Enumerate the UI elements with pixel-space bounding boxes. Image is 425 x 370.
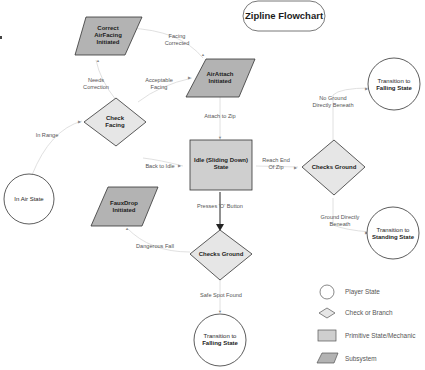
connector-marker: ▲ xyxy=(201,52,205,57)
node-checks-ground-bottom[interactable]: Checks Ground xyxy=(190,230,252,280)
edge-label: Corrected xyxy=(165,40,190,46)
node-label: AirFacing xyxy=(94,32,122,38)
node-label: State xyxy=(214,164,229,170)
node-label: Checks Ground xyxy=(199,251,244,257)
node-label: Correct xyxy=(97,25,118,31)
edge-label: Ground Directly xyxy=(321,214,360,220)
legend-item-subsystem: Subsystem xyxy=(317,353,377,363)
legend-item-player-state: Player State xyxy=(320,285,380,299)
edge-label: Acceptable xyxy=(145,77,173,83)
edge-label: Back to Idle xyxy=(145,163,174,169)
node-label: Falling State xyxy=(376,85,412,91)
node-checks-ground-right[interactable]: Checks Ground xyxy=(302,140,365,195)
connector-marker: ▼ xyxy=(218,309,222,314)
state-shape xyxy=(367,207,419,259)
diamond-icon xyxy=(319,308,335,318)
edge-label: Attach to Zip xyxy=(204,113,235,119)
node-label: Facing xyxy=(105,122,125,128)
connector-marker: ▲ xyxy=(125,226,129,231)
node-transition-falling-bottom[interactable]: Transition to Falling State xyxy=(194,314,246,366)
title-node[interactable]: Zipline Flowchart xyxy=(243,1,325,31)
connector-marker: ▲ xyxy=(96,58,100,63)
legend-label: Subsystem xyxy=(345,355,377,363)
node-label: Initiated xyxy=(96,39,119,45)
node-idle-state[interactable]: Idle (Sliding Down) State xyxy=(190,140,252,190)
parallelogram-icon xyxy=(317,353,338,363)
circle-icon xyxy=(320,285,334,299)
legend-label: Check or Branch xyxy=(345,309,393,316)
connector-marker: ▼ xyxy=(218,135,222,140)
edge-in-range xyxy=(32,121,82,175)
node-label: Standing State xyxy=(372,234,415,240)
node-check-facing[interactable]: Check Facing xyxy=(84,98,146,146)
legend: Player State Check or Branch Primitive S… xyxy=(317,285,416,363)
node-transition-falling-top[interactable]: Transition to Falling State xyxy=(368,58,420,110)
node-label: Falling State xyxy=(202,340,238,346)
edge-label: Correction xyxy=(83,84,109,90)
node-label: AirAttach xyxy=(206,71,233,77)
node-label: Idle (Sliding Down) xyxy=(194,157,248,163)
rectangle-icon xyxy=(318,330,336,341)
node-label: Transition to xyxy=(204,333,237,339)
node-airattach[interactable]: AirAttach Initiated xyxy=(186,59,255,97)
node-fauxdrop[interactable]: FauxDrop Initiated xyxy=(91,187,158,226)
edge-label: No Ground xyxy=(319,95,346,101)
legend-label: Primitive State/Mechanic xyxy=(345,332,416,339)
node-correct-airfacing[interactable]: Correct AirFacing Initiated xyxy=(75,17,142,55)
state-shape xyxy=(368,58,420,110)
edge-label: Of Zip xyxy=(268,164,283,170)
node-label: Transition to xyxy=(377,227,410,233)
node-label: Initiated xyxy=(208,78,231,84)
legend-item-check: Check or Branch xyxy=(319,308,393,318)
edge-label: Beneath xyxy=(330,221,351,227)
node-in-air-state[interactable]: In Air State xyxy=(4,174,54,224)
edge-label: Dangerous Fall xyxy=(136,243,174,249)
flowchart-canvas: ▲ ▲ ▶ ▶ ▼ ▶ ▶ ▶ ▶ ▲ ▼ Zipline Flowchart … xyxy=(0,0,425,370)
node-label: Transition to xyxy=(378,78,411,84)
node-transition-standing[interactable]: Transition to Standing State xyxy=(367,207,419,259)
node-label: In Air State xyxy=(14,196,44,202)
edge-label: In Range xyxy=(36,132,59,138)
edge-label: Presses 'O' Button xyxy=(197,203,243,209)
edge-label: Facing xyxy=(169,33,186,39)
connector-marker: ▶ xyxy=(188,75,192,80)
node-label: Check xyxy=(106,115,125,121)
edge-label: Facing xyxy=(151,84,168,90)
edge-label: Safe Spot Found xyxy=(200,292,242,298)
connector-marker: ▶ xyxy=(294,165,298,170)
page-title: Zipline Flowchart xyxy=(245,10,324,21)
edge-label: Needs xyxy=(88,77,104,83)
node-label: FauxDrop xyxy=(110,200,138,206)
node-label: Initiated xyxy=(112,207,135,213)
legend-item-primitive: Primitive State/Mechanic xyxy=(318,330,416,341)
edge-artifact xyxy=(0,36,2,39)
legend-label: Player State xyxy=(345,288,380,296)
node-label: Checks Ground xyxy=(312,164,357,170)
edge-label: Reach End xyxy=(262,157,290,163)
edge-label: Directly Beneath xyxy=(312,102,353,108)
